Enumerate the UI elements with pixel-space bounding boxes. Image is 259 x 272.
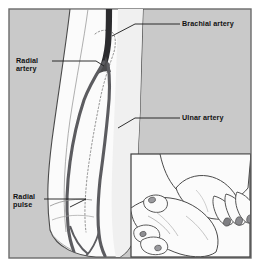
anatomy-figure: Brachial artery Radialartery Ulnar arter…: [0, 0, 259, 272]
label-radial-pulse: Radialpulse: [13, 193, 35, 210]
pulse-inset-panel: [131, 154, 257, 257]
label-ulnar-artery: Ulnar artery: [182, 114, 224, 122]
label-radial-artery-line2: artery: [16, 64, 37, 73]
label-radial-artery: Radialartery: [16, 57, 38, 74]
figure-canvas: [0, 0, 259, 272]
label-brachial-artery: Brachial artery: [182, 20, 234, 28]
label-radial-pulse-line2: pulse: [13, 200, 32, 209]
